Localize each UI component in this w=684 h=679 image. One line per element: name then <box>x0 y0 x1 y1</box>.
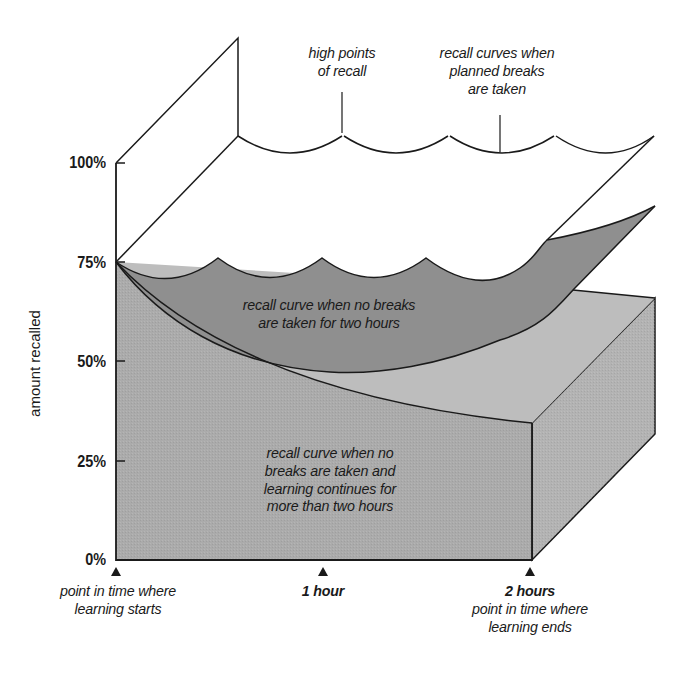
one-hour-marker-icon <box>318 567 328 576</box>
tick-label-50: 50% <box>52 353 106 371</box>
high-points-annotation: high points of recall <box>285 44 399 80</box>
tick-label-25: 25% <box>52 453 106 471</box>
no-breaks-more-than-two-label: recall curve when no breaks are taken an… <box>247 444 413 515</box>
no-breaks-two-hours-label: recall curve when no breaks are taken fo… <box>223 296 435 332</box>
start-label: point in time where learning starts <box>35 582 201 618</box>
y-axis-label: amount recalled <box>26 304 43 424</box>
planned-breaks-annotation: recall curves when planned breaks are ta… <box>419 44 575 97</box>
start-marker-icon <box>111 567 121 576</box>
end-label: point in time where learning ends <box>447 600 613 636</box>
two-hours-label: 2 hours <box>475 582 585 600</box>
recall-diagram <box>0 0 684 679</box>
tick-label-100: 100% <box>52 154 106 172</box>
two-hours-marker-icon <box>525 567 535 576</box>
one-hour-label: 1 hour <box>268 582 378 600</box>
tick-label-0: 0% <box>52 551 106 569</box>
tick-label-75: 75% <box>52 254 106 272</box>
